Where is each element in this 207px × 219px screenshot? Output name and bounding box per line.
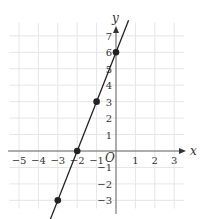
y-tick-label: 4 [106,80,112,91]
x-tick-label: −5 [12,155,27,166]
x-tick-label: 2 [152,155,158,166]
y-tick-label: 3 [106,97,112,108]
y-tick-label: −3 [97,195,112,206]
x-tick-label: 3 [171,155,177,166]
y-tick-label: 1 [106,130,112,141]
x-tick-label: −4 [31,155,46,166]
y-axis-label: y [111,11,119,25]
chart-plot: −5−4−3−2−1123−3−2−11234567 x y O [0,0,207,219]
x-axis-label: x [190,144,197,158]
y-tick-label: 7 [106,31,112,42]
x-tick-label: −3 [50,155,65,166]
y-tick-label: 2 [106,113,112,124]
y-tick-label: −2 [97,179,112,190]
y-axis-arrow-icon [113,26,119,33]
data-point [55,197,62,204]
data-point [93,98,100,105]
origin-label: O [105,151,115,165]
x-tick-label: 1 [132,155,138,166]
coordinate-plane-chart: −5−4−3−2−1123−3−2−11234567 x y O [0,0,207,219]
data-point [74,148,81,155]
x-axis-arrow-icon [179,148,186,154]
y-tick-label: 6 [106,47,112,58]
data-point [113,49,120,56]
